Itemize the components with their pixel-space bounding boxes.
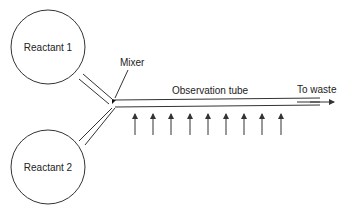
mixer-pointer-line [115, 70, 128, 98]
observation-arrows [135, 114, 281, 135]
to-waste-label: To waste [297, 84, 337, 95]
observation-tube-label: Observation tube [172, 85, 249, 96]
upper-feed-tube [79, 74, 112, 104]
lower-feed-tube [79, 108, 115, 145]
reactant-2-label: Reactant 2 [24, 162, 73, 173]
flow-apparatus-diagram: Reactant 1 Reactant 2 Mixer Observation … [0, 0, 356, 212]
reactant-1-label: Reactant 1 [24, 42, 73, 53]
observation-tube [115, 98, 320, 107]
mixer-label: Mixer [120, 57, 145, 68]
